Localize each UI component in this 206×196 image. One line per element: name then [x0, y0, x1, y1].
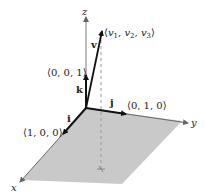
v-component-label: ⟨v1, v2, v3⟩ [104, 27, 155, 40]
k-label: k [76, 84, 84, 95]
j-label: j [109, 97, 114, 108]
k-component-label: ⟨0, 0, 1⟩ [47, 67, 87, 78]
vector-diagram: z y x k j i v ⟨0, 0, 1⟩ ⟨0, 1, 0⟩ ⟨1, 0,… [0, 0, 206, 196]
x-axis-label: x [11, 182, 17, 193]
i-component-label: ⟨1, 0, 0⟩ [23, 127, 63, 138]
z-axis-label: z [81, 6, 88, 17]
xy-plane [22, 108, 182, 184]
y-axis-label: y [190, 117, 197, 128]
i-label: i [67, 113, 71, 124]
j-component-label: ⟨0, 1, 0⟩ [127, 100, 167, 111]
v-label: v [90, 39, 98, 50]
